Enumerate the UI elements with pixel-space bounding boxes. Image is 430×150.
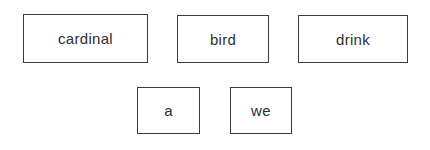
word-box-bird: bird — [177, 15, 269, 63]
word-label: we — [251, 102, 271, 119]
word-label: drink — [336, 31, 370, 48]
word-box-a: a — [137, 87, 200, 134]
word-label: a — [164, 102, 173, 119]
word-box-drink: drink — [298, 15, 408, 63]
word-label: bird — [210, 31, 236, 48]
word-label: cardinal — [58, 30, 113, 47]
word-box-cardinal: cardinal — [23, 14, 148, 63]
word-box-we: we — [230, 87, 292, 134]
